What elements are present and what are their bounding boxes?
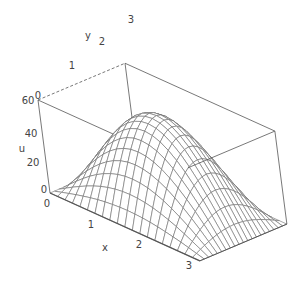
box-right-vertical-edge bbox=[275, 131, 287, 224]
x-axis-label: x bbox=[102, 242, 108, 253]
x-tick-label: 3 bbox=[186, 260, 192, 271]
y-tick-label: 3 bbox=[128, 14, 134, 25]
u-tick-label: 40 bbox=[25, 128, 38, 139]
y-axis-label: y bbox=[85, 30, 91, 41]
x-tick-label: 0 bbox=[44, 198, 50, 209]
x-tick-label: 1 bbox=[88, 219, 94, 230]
y-tick-label: 0 bbox=[35, 90, 41, 101]
surface-plot: x y u 012301236040200 bbox=[0, 0, 291, 285]
x-tick-label: 2 bbox=[136, 239, 142, 250]
y-axis-line bbox=[38, 63, 125, 100]
y-tick-label: 2 bbox=[99, 36, 105, 47]
axis-labels: x y u bbox=[19, 30, 108, 253]
u-tick-label: 0 bbox=[41, 184, 47, 195]
u-axis-line bbox=[38, 100, 50, 193]
u-tick-label: 20 bbox=[27, 157, 40, 168]
u-tick-label: 60 bbox=[22, 95, 35, 106]
u-axis-label: u bbox=[19, 143, 25, 154]
y-tick-label: 1 bbox=[69, 60, 75, 71]
